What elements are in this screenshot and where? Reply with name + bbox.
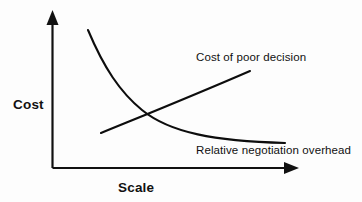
chart-canvas bbox=[0, 0, 362, 202]
cost-scale-figure: Cost Scale Cost of poor decision Relativ… bbox=[0, 0, 362, 202]
y-axis-label: Cost bbox=[13, 98, 44, 112]
series-label-relative-negotiation-overhead: Relative negotiation overhead bbox=[196, 145, 351, 157]
curve-cost-of-poor-decision bbox=[101, 71, 250, 133]
x-axis-arrow-icon bbox=[284, 162, 299, 174]
series-label-cost-of-poor-decision: Cost of poor decision bbox=[196, 52, 306, 64]
x-axis-label: Scale bbox=[118, 181, 154, 195]
y-axis-arrow-icon bbox=[47, 10, 59, 25]
